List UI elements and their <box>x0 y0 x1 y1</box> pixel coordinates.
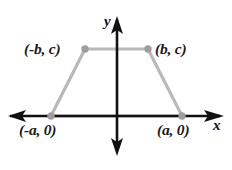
diagram-canvas: (-b, c) (b, c) (-a, 0) (a, 0) x y <box>0 0 232 170</box>
vertex-dot-top-left <box>81 45 88 52</box>
vertex-label-bottom-right: (a, 0) <box>157 122 189 138</box>
x-axis-label: x <box>213 118 221 133</box>
vertex-label-bottom-left: (-a, 0) <box>19 122 56 138</box>
vertex-label-top-left: (-b, c) <box>24 41 60 57</box>
vertex-dot-bottom-left <box>47 112 54 119</box>
vertex-dot-top-right <box>144 45 151 52</box>
coordinate-plane-figure <box>0 0 232 170</box>
y-axis-label: y <box>104 14 111 29</box>
vertex-dot-bottom-right <box>178 112 185 119</box>
vertex-label-top-right: (b, c) <box>155 41 187 57</box>
